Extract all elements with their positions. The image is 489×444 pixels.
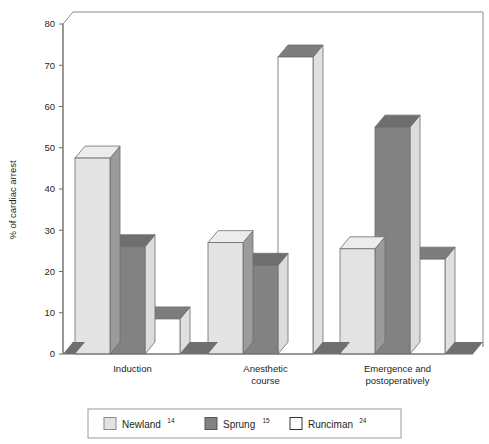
legend-superscript-ref: 24 [359,417,367,424]
y-axis-title: % of cardiac arrest [7,160,18,240]
bar-side-face [410,115,420,354]
legend-swatch[interactable] [104,418,116,430]
x-axis-category-label: course [251,375,280,386]
y-axis-tick-label: 0 [50,348,55,359]
bar-front-face [75,158,110,354]
x-axis-category-label: postoperatively [366,375,430,386]
y-axis-tick-label: 70 [44,60,55,71]
legend-label: Newland [122,419,161,430]
chart-legend: Newland14Sprung15Runciman24 [88,409,401,438]
y-axis-tick-label: 50 [44,142,55,153]
bar-side-face [375,237,385,354]
bar-side-face [278,253,288,354]
x-axis-category-label: Induction [113,363,152,374]
legend-superscript-ref: 15 [262,417,270,424]
chart-figure: 01020304050607080 % of cardiac arrest In… [0,0,489,444]
bar-side-face [313,45,323,354]
bars-layer [75,45,455,354]
legend-superscript-ref: 14 [167,417,175,424]
legend-label: Sprung [223,419,255,430]
legend-swatch[interactable] [205,418,217,430]
bar-front-face [208,243,243,354]
y-axis-tick-label: 40 [44,183,55,194]
bar-side-face [445,247,455,354]
y-axis-tick-label: 10 [44,307,55,318]
bar-side-face [243,231,253,354]
bar-newland-1 [208,231,253,354]
bar-side-face [145,235,155,354]
bar-newland-2 [340,237,385,354]
bar-front-face [340,249,375,354]
bar-newland-0 [75,146,120,354]
y-axis-tick-label: 80 [44,18,55,29]
x-axis-category-label: Anesthetic [243,363,288,374]
legend-label: Runciman [308,419,353,430]
bar-chart-3d: 01020304050607080 % of cardiac arrest In… [0,0,489,444]
x-axis-category-label: Emergence and [364,363,431,374]
y-axis-tick-label: 30 [44,225,55,236]
y-axis-tick-label: 20 [44,266,55,277]
y-axis-tick-label: 60 [44,101,55,112]
y-axis: 01020304050607080 [44,18,63,359]
bar-side-face [110,146,120,354]
legend-swatch[interactable] [290,418,302,430]
